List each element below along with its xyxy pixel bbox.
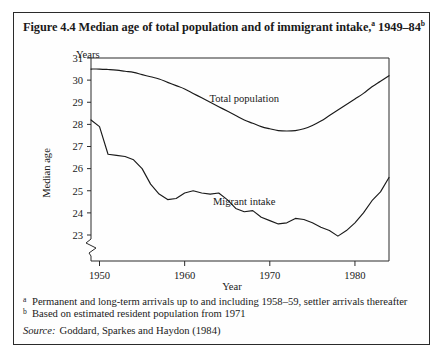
source-text: Goddard, Sparkes and Haydon (1984) (60, 325, 221, 336)
x-axis-ticks: 1950196019701980 (89, 261, 366, 281)
source-line: Source:Goddard, Sparkes and Haydon (1984… (23, 325, 423, 337)
footnote-b-mark: b (23, 306, 27, 318)
y-tick-label: 23 (72, 230, 83, 241)
y-tick-label: 27 (72, 141, 83, 152)
footnotes-block: aPermanent and long-term arrivals up to … (23, 296, 423, 337)
chart-plot-area: Years Median age Year 232425262728293031… (14, 13, 431, 303)
y-tick-label: 29 (72, 97, 83, 108)
x-axis-title: Year (222, 281, 242, 292)
series-label-migrant-intake: Migrant intake (213, 196, 276, 207)
line-chart-svg: Years Median age Year 232425262728293031… (14, 13, 431, 303)
y-tick-label: 31 (72, 53, 83, 64)
series-annotation-group: Total populationMigrant intake (209, 93, 279, 207)
y-tick-label: 24 (72, 208, 83, 219)
series-line-migrant-intake (91, 120, 389, 236)
series-label-total-population: Total population (209, 93, 279, 104)
figure-container: Figure 4.4 Median age of total populatio… (13, 12, 430, 345)
x-tick-label: 1980 (344, 270, 365, 281)
x-tick-label: 1950 (89, 270, 110, 281)
plot-frame (91, 58, 389, 261)
y-axis-title: Median age (41, 148, 52, 198)
x-tick-label: 1960 (174, 270, 195, 281)
y-tick-label: 26 (72, 163, 83, 174)
footnote-a-mark: a (23, 294, 26, 306)
y-axis-break-icon (86, 235, 96, 261)
footnote-b-text: Based on estimated resident population f… (32, 308, 246, 319)
source-label: Source: (23, 325, 56, 336)
y-tick-label: 28 (72, 119, 83, 130)
footnote-a-text: Permanent and long-term arrivals up to a… (32, 296, 407, 307)
x-tick-label: 1970 (259, 270, 280, 281)
footnote-b: bBased on estimated resident population … (23, 308, 423, 320)
y-tick-label: 25 (72, 186, 83, 197)
y-tick-label: 30 (72, 75, 83, 86)
y-axis-ticks: 232425262728293031 (72, 53, 91, 241)
footnote-a: aPermanent and long-term arrivals up to … (23, 296, 423, 308)
